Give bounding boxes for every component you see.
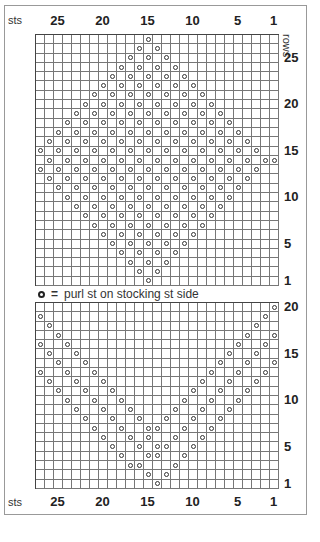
chart-cell bbox=[99, 442, 108, 451]
purl-stitch-icon bbox=[92, 185, 97, 190]
chart-cell bbox=[153, 277, 162, 286]
chart-cell bbox=[99, 267, 108, 276]
chart-cell bbox=[225, 174, 234, 183]
chart-cell bbox=[54, 349, 63, 358]
chart-cell bbox=[99, 119, 108, 128]
chart-cell bbox=[117, 331, 126, 340]
chart-cell bbox=[189, 193, 198, 202]
chart-cell bbox=[270, 230, 279, 239]
row-number-label: 5 bbox=[284, 236, 291, 251]
chart-cell bbox=[54, 470, 63, 479]
chart-cell bbox=[126, 396, 135, 405]
chart-cell bbox=[198, 221, 207, 230]
chart-cell bbox=[252, 202, 261, 211]
chart-cell bbox=[144, 109, 153, 118]
chart-cell bbox=[252, 156, 261, 165]
row-number-label: 1 bbox=[284, 273, 291, 288]
chart-cell bbox=[63, 277, 72, 286]
chart-cell bbox=[198, 433, 207, 442]
purl-stitch-icon bbox=[83, 158, 88, 163]
chart-cell bbox=[252, 240, 261, 249]
chart-cell bbox=[180, 81, 189, 90]
chart-cell bbox=[162, 184, 171, 193]
chart-cell bbox=[72, 147, 81, 156]
chart-cell bbox=[99, 368, 108, 377]
chart-cell bbox=[234, 461, 243, 470]
purl-stitch-icon bbox=[227, 120, 232, 125]
chart-cell bbox=[63, 303, 72, 312]
chart-cell bbox=[135, 349, 144, 358]
chart-cell bbox=[216, 109, 225, 118]
chart-cell bbox=[72, 63, 81, 72]
chart-cell bbox=[81, 44, 90, 53]
chart-cell bbox=[126, 81, 135, 90]
chart-cell bbox=[90, 322, 99, 331]
chart-cell bbox=[207, 396, 216, 405]
stitch-number-label: 10 bbox=[185, 494, 199, 509]
purl-stitch-icon bbox=[182, 111, 187, 116]
purl-stitch-icon bbox=[218, 360, 223, 365]
purl-stitch-icon bbox=[101, 120, 106, 125]
chart-cell bbox=[225, 470, 234, 479]
chart-cell bbox=[261, 137, 270, 146]
chart-cell bbox=[45, 249, 54, 258]
chart-cell bbox=[117, 415, 126, 424]
chart-cell bbox=[108, 165, 117, 174]
chart-cell bbox=[36, 202, 45, 211]
purl-stitch-icon bbox=[101, 176, 106, 181]
purl-stitch-icon bbox=[164, 167, 169, 172]
chart-cell bbox=[81, 340, 90, 349]
chart-cell bbox=[36, 340, 45, 349]
chart-cell bbox=[216, 470, 225, 479]
chart-cell bbox=[198, 212, 207, 221]
chart-cell bbox=[225, 359, 234, 368]
purl-stitch-icon bbox=[65, 342, 70, 347]
chart-cell bbox=[63, 202, 72, 211]
purl-stitch-icon bbox=[164, 92, 169, 97]
chart-cell bbox=[189, 377, 198, 386]
chart-cell bbox=[153, 109, 162, 118]
chart-cell bbox=[54, 212, 63, 221]
purl-stitch-icon bbox=[227, 176, 232, 181]
chart-cell bbox=[261, 72, 270, 81]
chart-cell bbox=[234, 387, 243, 396]
chart-cell bbox=[72, 368, 81, 377]
chart-cell bbox=[153, 415, 162, 424]
chart-cell bbox=[261, 461, 270, 470]
purl-stitch-icon bbox=[137, 444, 142, 449]
chart-cell bbox=[36, 221, 45, 230]
chart-cell bbox=[243, 368, 252, 377]
chart-cell bbox=[36, 63, 45, 72]
chart-cell bbox=[189, 368, 198, 377]
chart-cell bbox=[99, 277, 108, 286]
chart-cell bbox=[243, 415, 252, 424]
chart-cell bbox=[135, 277, 144, 286]
chart-cell bbox=[189, 221, 198, 230]
chart-cell bbox=[81, 202, 90, 211]
chart-cell bbox=[180, 165, 189, 174]
purl-stitch-icon bbox=[200, 204, 205, 209]
purl-stitch-icon bbox=[173, 83, 178, 88]
chart-cell bbox=[36, 100, 45, 109]
purl-stitch-icon bbox=[209, 158, 214, 163]
chart-cell bbox=[180, 156, 189, 165]
chart-cell bbox=[54, 72, 63, 81]
chart-cell bbox=[171, 303, 180, 312]
purl-stitch-icon bbox=[65, 176, 70, 181]
purl-stitch-icon bbox=[110, 223, 115, 228]
chart-cell bbox=[207, 303, 216, 312]
chart-cell bbox=[225, 480, 234, 489]
chart-cell bbox=[234, 81, 243, 90]
chart-cell bbox=[90, 480, 99, 489]
chart-cell bbox=[252, 54, 261, 63]
chart-cell bbox=[63, 470, 72, 479]
chart-cell bbox=[108, 212, 117, 221]
chart-cell bbox=[180, 63, 189, 72]
chart-cell bbox=[207, 63, 216, 72]
purl-stitch-icon bbox=[119, 65, 124, 70]
chart-cell bbox=[126, 221, 135, 230]
chart-cell bbox=[117, 442, 126, 451]
chart-cell bbox=[117, 368, 126, 377]
chart-cell bbox=[243, 387, 252, 396]
chart-cell bbox=[135, 109, 144, 118]
